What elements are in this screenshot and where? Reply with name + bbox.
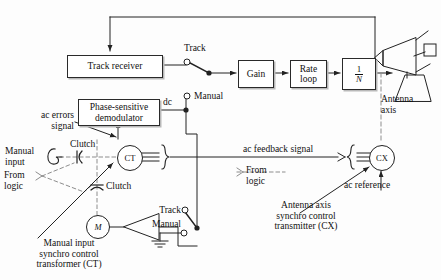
label-clutch-lower: Clutch [106, 181, 131, 192]
dc-junction-node [183, 107, 188, 112]
upper-switch-wiper-node [206, 70, 211, 75]
block-phase-sensitive-demodulator-label: Phase-sensitive demodulator [90, 102, 149, 123]
amp-out-to-switch-wire [159, 227, 197, 246]
ct-brace [162, 145, 169, 169]
antenna-feed-leg-2 [416, 64, 430, 72]
antenna-dish-body [383, 38, 416, 75]
block-gain-label: Gain [247, 69, 265, 80]
upper-switch-wiper [190, 63, 209, 73]
label-manual-upper: Manual [194, 91, 223, 102]
label-manual-input: Manual input [5, 146, 34, 167]
from-logic-left-branch-marker [36, 172, 42, 180]
block-gain[interactable]: Gain [238, 60, 274, 88]
from-logic-left-lead-1 [42, 163, 74, 176]
manual-input-knob [48, 149, 62, 164]
label-from-logic-right: From logic [246, 165, 267, 186]
component-cx-label: CX [376, 153, 388, 163]
upper-switch-track-contact [184, 59, 190, 65]
component-ct[interactable]: CT [117, 145, 143, 171]
antenna-dish-back [375, 51, 383, 66]
block-track-receiver[interactable]: Track receiver [67, 55, 163, 78]
label-track-lower: Track [139, 205, 181, 216]
cx-brace [347, 145, 354, 169]
caption-cx: Antenna axis synchro control transmitter… [243, 200, 369, 232]
antenna-feed-leg-1 [416, 31, 428, 40]
label-dc: dc [163, 97, 172, 108]
block-phase-sensitive-demodulator[interactable]: Phase-sensitive demodulator [78, 99, 160, 126]
block-one-over-n-fraction: 1 N [355, 65, 364, 83]
caption-ct: Manual input synchro control transformer… [6, 238, 132, 270]
label-antenna-axis: Antenna axis [381, 94, 413, 115]
label-clutch-upper: Clutch [70, 139, 95, 150]
block-diagram-canvas: Track receiver Phase-sensitive demodulat… [0, 0, 441, 280]
component-cx[interactable]: CX [369, 145, 395, 171]
component-ct-label: CT [125, 153, 136, 163]
label-ac-reference: ac reference [344, 180, 390, 191]
label-ac-errors-signal: ac errors signal [8, 110, 74, 131]
from-logic-left-lead-2 [42, 176, 84, 192]
component-motor-label: M [94, 222, 101, 232]
label-from-logic-left: From logic [4, 170, 25, 191]
lower-switch-manual-contact [181, 230, 187, 236]
upper-switch-manual-contact [184, 93, 190, 99]
one-over-n-denominator: N [356, 74, 362, 84]
lower-switch-wiper-node [194, 225, 199, 230]
block-one-over-n[interactable]: 1 N [342, 58, 376, 90]
lower-switch-track-contact [182, 207, 188, 213]
block-track-receiver-label: Track receiver [88, 61, 143, 72]
label-manual-lower: Manual [129, 219, 181, 230]
label-ac-feedback-signal: ac feedback signal [243, 144, 313, 155]
lower-switch-wiper [185, 212, 197, 228]
label-track-upper: Track [184, 43, 206, 54]
block-rate-loop[interactable]: Rate loop [290, 60, 327, 88]
feedback-arrowhead [338, 153, 345, 161]
component-motor[interactable]: M [86, 215, 110, 239]
block-rate-loop-label: Rate loop [300, 64, 317, 85]
antenna-feed-box [424, 44, 436, 56]
